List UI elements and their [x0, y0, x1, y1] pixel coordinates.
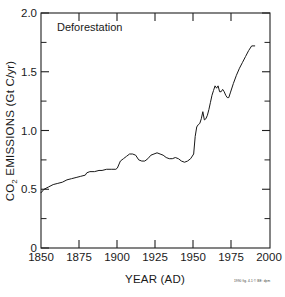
figure-credit: 1990 fig. 4.1 © BE: dpm [234, 279, 270, 283]
y-tick-labels: 2.0 1.5 1.0 0.5 0 [21, 7, 37, 254]
chart-svg: 2.0 1.5 1.0 0.5 0 1850 1875 1900 1925 19… [0, 0, 285, 297]
plot-frame [41, 13, 270, 248]
x-axis-ticks [79, 13, 231, 248]
svg-text:CO2 EMISSIONS (Gt C/yr): CO2 EMISSIONS (Gt C/yr) [4, 61, 19, 202]
y-axis-major-ticks [41, 13, 49, 248]
figure-container: 2.0 1.5 1.0 0.5 0 1850 1875 1900 1925 19… [0, 0, 285, 297]
x-tick-label-6: 2000 [256, 251, 282, 263]
x-axis-title: YEAR (AD) [125, 273, 185, 285]
x-tick-label-0: 1850 [28, 251, 54, 263]
y-tick-label-4: 2.0 [21, 7, 37, 19]
x-tick-labels: 1850 1875 1900 1925 1950 1975 2000 [28, 251, 282, 263]
x-tick-label-4: 1950 [180, 251, 206, 263]
series-line-deforestation [41, 46, 255, 193]
plot-title: Deforestation [57, 21, 122, 33]
x-tick-label-1: 1875 [66, 251, 92, 263]
y-tick-label-1: 0.5 [21, 183, 37, 195]
y-axis-right-ticks [262, 13, 270, 219]
y-axis-title: CO2 EMISSIONS (Gt C/yr) [4, 61, 19, 202]
y-axis-title-suffix: EMISSIONS (Gt C/yr) [4, 61, 16, 179]
y-tick-label-2: 1.0 [21, 125, 37, 137]
y-axis-title-prefix: CO [4, 184, 16, 202]
x-tick-label-2: 1900 [104, 251, 130, 263]
y-tick-label-3: 1.5 [21, 66, 37, 78]
x-tick-label-3: 1925 [142, 251, 168, 263]
x-tick-label-5: 1975 [218, 251, 244, 263]
